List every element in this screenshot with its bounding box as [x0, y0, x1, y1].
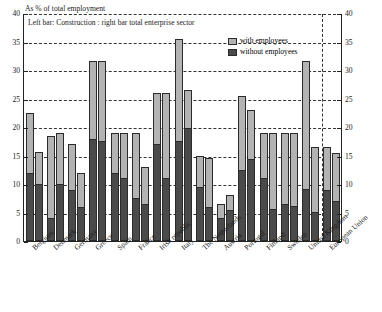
bar-total-enterprise [120, 133, 128, 241]
y-axis-label: 20 [0, 124, 20, 132]
segment-with-employees [154, 94, 160, 145]
legend-item: without employees [228, 47, 298, 57]
segment-with-employees [57, 134, 63, 184]
bar-group [175, 39, 192, 241]
segment-without-employees [57, 184, 63, 240]
y-axis-tick [337, 43, 341, 44]
y-axis-tick [24, 14, 28, 15]
bar-group [47, 133, 64, 241]
y-axis-label: 5 [0, 210, 20, 218]
y-axis-tick [337, 71, 341, 72]
legend-item: with employees [228, 36, 298, 46]
segment-with-employees [261, 134, 267, 179]
bar-construction [260, 133, 268, 241]
bar-total-enterprise [269, 133, 277, 241]
segment-with-employees [324, 148, 330, 190]
bar-total-enterprise [247, 110, 255, 241]
y-axis-tick [24, 100, 28, 101]
segment-without-employees [90, 139, 96, 240]
segment-with-employees [112, 134, 118, 173]
bar-construction [47, 136, 55, 241]
eu-divider [322, 14, 323, 241]
y-axis-tick [24, 185, 28, 186]
segment-without-employees [27, 173, 33, 240]
y-axis-label: 15 [0, 153, 20, 161]
y-axis-label: 15 [345, 153, 365, 161]
y-axis-label: 25 [345, 96, 365, 104]
bar-construction [26, 113, 34, 241]
bar-total-enterprise [56, 133, 64, 241]
bar-group [260, 133, 277, 241]
bar-construction [281, 133, 289, 241]
y-axis-label: 0 [0, 238, 20, 246]
bar-construction [132, 133, 140, 241]
bar-construction [153, 93, 161, 241]
bar-total-enterprise [98, 61, 106, 241]
y-axis-label: 40 [0, 10, 20, 18]
chart-subtitle: Left bar: Construction : right bar total… [28, 18, 195, 27]
bar-group [89, 61, 106, 241]
y-axis-tick [24, 128, 28, 129]
y-axis-tick [337, 185, 341, 186]
y-axis-label: 30 [345, 67, 365, 75]
bar-total-enterprise [290, 133, 298, 241]
segment-with-employees [99, 62, 105, 141]
segment-with-employees [270, 134, 276, 210]
chart-root: As % of total employment Left bar: Const… [0, 0, 382, 312]
segment-with-employees [185, 91, 191, 128]
bar-construction [89, 61, 97, 241]
segment-with-employees [248, 111, 254, 159]
segment-with-employees [176, 40, 182, 142]
y-axis-label: 10 [345, 181, 365, 189]
segment-with-employees [90, 62, 96, 138]
segment-without-employees [112, 173, 118, 240]
legend-swatch-without-employees [228, 49, 237, 56]
legend-label: without employees [240, 47, 298, 57]
bar-group [302, 61, 319, 241]
chart-title: As % of total employment [25, 4, 105, 13]
segment-with-employees [282, 134, 288, 204]
bar-total-enterprise [35, 152, 43, 241]
bar-group [153, 93, 170, 241]
segment-without-employees [154, 144, 160, 240]
segment-with-employees [291, 134, 297, 207]
segment-without-employees [99, 141, 105, 240]
segment-without-employees [36, 184, 42, 240]
segment-with-employees [206, 159, 212, 206]
bar-construction [302, 61, 310, 241]
y-axis-tick [24, 214, 28, 215]
segment-without-employees [133, 198, 139, 240]
y-axis-tick [24, 157, 28, 158]
segment-with-employees [142, 168, 148, 204]
y-axis-label: 30 [0, 67, 20, 75]
bar-total-enterprise [141, 167, 149, 241]
y-axis-label: 40 [345, 10, 365, 18]
bar-group [26, 113, 43, 241]
segment-with-employees [36, 153, 42, 185]
bar-total-enterprise [162, 93, 170, 241]
segment-with-employees [333, 154, 339, 201]
bar-construction [111, 133, 119, 241]
y-axis-tick [337, 14, 341, 15]
y-axis-tick [337, 157, 341, 158]
segment-without-employees [197, 187, 203, 240]
segment-without-employees [163, 178, 169, 240]
segment-without-employees [248, 159, 254, 240]
bar-construction [196, 156, 204, 242]
y-axis-label: 25 [0, 96, 20, 104]
bar-group [111, 133, 128, 241]
bar-total-enterprise [77, 173, 85, 241]
bar-total-enterprise [311, 147, 319, 241]
segment-without-employees [239, 170, 245, 240]
segment-with-employees [218, 205, 224, 218]
chart-legend: with employees without employees [228, 36, 298, 58]
segment-with-employees [197, 157, 203, 188]
segment-with-employees [27, 114, 33, 173]
y-axis-tick [337, 128, 341, 129]
y-axis-tick [24, 43, 28, 44]
segment-with-employees [133, 134, 139, 198]
legend-label: with employees [240, 36, 288, 46]
bar-group [196, 156, 213, 242]
y-axis-label: 0 [345, 238, 365, 246]
y-axis-tick [24, 71, 28, 72]
